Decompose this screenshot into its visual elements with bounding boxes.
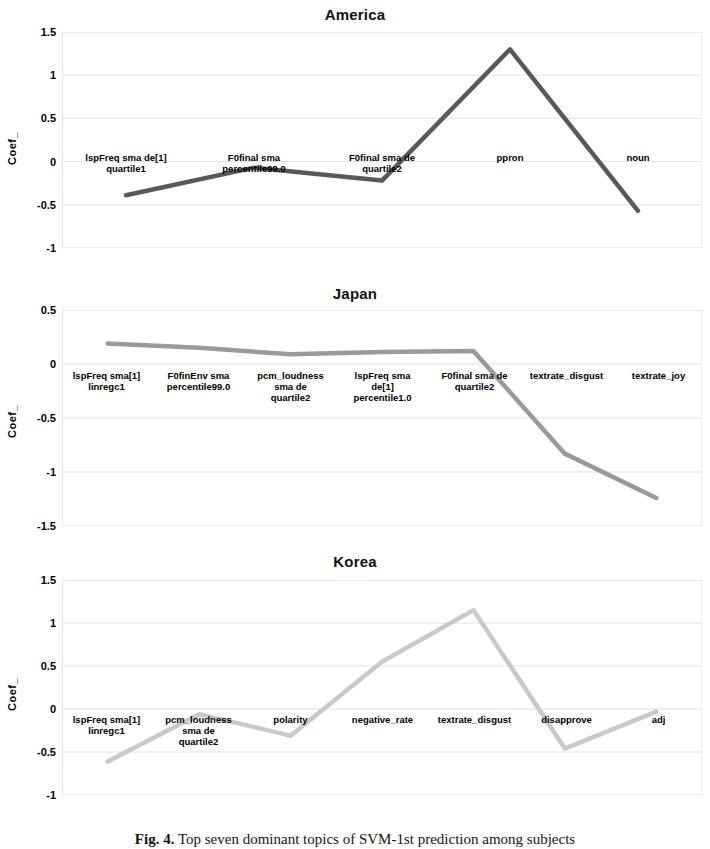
chart-title-america: America (0, 6, 710, 24)
y-tick-label: 1.5 (41, 575, 56, 585)
y-tick-label: -0.5 (37, 413, 56, 423)
y-tick-label: 1 (50, 70, 56, 80)
y-tick-label: -0.5 (37, 200, 56, 210)
y-tick-label: 0 (50, 359, 56, 369)
y-tick-label: 1.5 (41, 27, 56, 37)
y-tick-label: -1 (46, 243, 56, 253)
y-tick-label: 0.5 (41, 113, 56, 123)
x-axis-label: polarity (238, 714, 343, 725)
x-axis-label: F0final sma de quartile2 (422, 370, 527, 392)
x-axis-label: lspFreq sma de[1] percentile1.0 (330, 370, 435, 403)
chart-panel-korea: Korea Coef_ 1.5 1 0.5 0 -0.5 -1 lspFreq … (0, 551, 710, 826)
figure-caption-label: Fig. 4. (135, 831, 175, 847)
x-axis-label: F0finEnv sma percentile99.0 (146, 370, 251, 392)
x-axis-label: textrate_disgust (514, 370, 619, 381)
x-axis-label: F0final sma de quartile2 (310, 152, 454, 174)
x-axis-label: ppron (438, 152, 582, 163)
chart-title-japan: Japan (0, 285, 710, 303)
plot-svg-korea (62, 580, 702, 795)
figure-caption-text: Top seven dominant topics of SVM-1st pre… (178, 831, 575, 847)
x-axis-label: pcm_loudness sma de quartile2 (238, 370, 343, 403)
y-tick-label: 1 (50, 618, 56, 628)
plot-area-korea: lspFreq sma[1] linregc1 pcm_loudness sma… (62, 580, 702, 795)
y-tick-label: 0.5 (41, 305, 56, 315)
figure-svm-coefficients: America Coef_ 1.5 1 0.5 0 -0.5 -1 lspFre… (0, 0, 710, 849)
plot-svg-japan (62, 310, 702, 526)
y-tick-label: 0.5 (41, 661, 56, 671)
y-tick-label: -1.5 (37, 521, 56, 531)
plot-frame (62, 580, 702, 795)
y-tick-label: -0.5 (37, 747, 56, 757)
plot-frame (62, 32, 702, 248)
plot-area-japan: lspFreq sma[1] linregc1 F0finEnv sma per… (62, 310, 702, 526)
y-tick-label: -1 (46, 790, 56, 800)
x-axis-label: pcm_loudness sma de quartile2 (146, 714, 251, 747)
x-axis-label: disapprove (514, 714, 619, 725)
y-axis-ticks-korea: 1.5 1 0.5 0 -0.5 -1 (0, 580, 56, 795)
plot-svg-america (62, 32, 702, 248)
x-axis-label: negative_rate (330, 714, 435, 725)
plot-area-america: lspFreq sma de[1] quartile1 F0final sma … (62, 32, 702, 248)
x-axis-label: F0final sma percentile99.0 (182, 152, 326, 174)
x-axis-label: noun (566, 152, 710, 163)
x-axis-label: lspFreq sma de[1] quartile1 (54, 152, 198, 174)
x-axis-label: adj (606, 714, 710, 725)
figure-caption: Fig. 4. Top seven dominant topics of SVM… (0, 831, 710, 848)
y-axis-ticks-america: 1.5 1 0.5 0 -0.5 -1 (0, 32, 56, 248)
y-tick-label: 0 (50, 704, 56, 714)
x-axis-label: lspFreq sma[1] linregc1 (54, 714, 159, 736)
x-axis-label: lspFreq sma[1] linregc1 (54, 370, 159, 392)
y-axis-ticks-japan: 0.5 0 -0.5 -1 -1.5 (0, 310, 56, 526)
x-axis-label: textrate_disgust (422, 714, 527, 725)
y-tick-label: -1 (46, 467, 56, 477)
chart-panel-japan: Japan Coef_ 0.5 0 -0.5 -1 -1.5 lspFreq s… (0, 283, 710, 548)
chart-title-korea: Korea (0, 553, 710, 571)
chart-panel-america: America Coef_ 1.5 1 0.5 0 -0.5 -1 lspFre… (0, 0, 710, 280)
x-axis-label: textrate_joy (606, 370, 710, 381)
